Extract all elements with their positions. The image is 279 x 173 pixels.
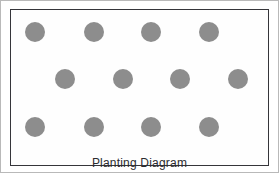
- plant-dot-r3-c1: [25, 117, 45, 137]
- diagram-border: Planting Diagram: [10, 9, 269, 166]
- plant-dot-r2-c4: [228, 69, 248, 89]
- diagram-caption: Planting Diagram: [11, 156, 268, 170]
- plant-dot-r1-c1: [25, 22, 45, 42]
- plant-dot-r2-c1: [55, 69, 75, 89]
- plant-dot-r3-c3: [141, 117, 161, 137]
- plant-dot-r1-c3: [141, 22, 161, 42]
- plant-dot-r3-c4: [199, 117, 219, 137]
- plant-dot-r2-c3: [170, 69, 190, 89]
- planting-diagram-screenshot: Planting Diagram: [0, 0, 279, 173]
- plant-dot-r1-c4: [199, 22, 219, 42]
- plot-area: [11, 10, 268, 165]
- plant-dot-r1-c2: [84, 22, 104, 42]
- plant-dot-r3-c2: [84, 117, 104, 137]
- plant-dot-r2-c2: [113, 69, 133, 89]
